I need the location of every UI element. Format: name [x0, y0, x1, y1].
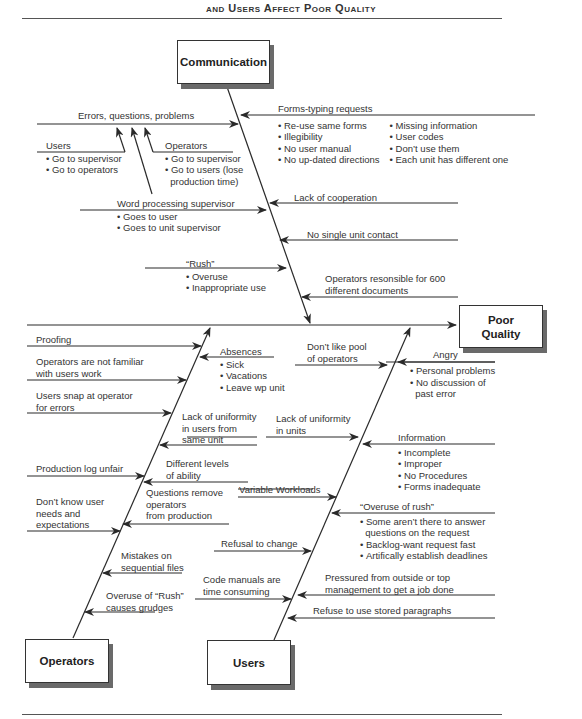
cause-overuse-of-rush: “Overuse of rush” Some aren’t there to a… — [360, 501, 487, 562]
cause-angry: Angry — [433, 349, 458, 361]
cause-users-snap: Users snap at operatorfor errors — [36, 390, 133, 413]
cause-information: Information IncompleteImproperNo Procedu… — [398, 432, 481, 493]
cause-angry-items: Personal problemsNo discussion ofpast er… — [410, 364, 495, 400]
cause-lack-uniformity-units: Lack of uniformityin units — [276, 413, 350, 436]
cause-production-log-unfair: Production log unfair — [36, 463, 123, 475]
cause-different-levels-ability: Different levelsof ability — [166, 458, 229, 481]
cause-pressured-outside: Pressured from outside or topmanagement … — [325, 572, 454, 595]
cause-proofing: Proofing — [36, 334, 71, 346]
cause-lack-of-cooperation: Lack of cooperation — [294, 192, 377, 204]
cause-absences: Absences SickVacationsLeave wp unit — [220, 346, 285, 393]
users-box: Users — [207, 640, 291, 685]
cause-rush: “Rush” OveruseInappropriate use — [186, 258, 266, 294]
cause-refusal-to-change: Refusal to change — [221, 538, 298, 550]
cause-dont-like-pool: Don’t like poolof operators — [307, 341, 367, 364]
cause-operators-not-familiar: Operators are not familiarwith users wor… — [36, 356, 144, 379]
communication-box: Communication — [177, 40, 270, 84]
cause-questions-remove-operators: Questions removeoperatorsfrom production — [146, 487, 223, 522]
cause-variable-workloads: Variable Workloads — [239, 484, 321, 496]
cause-forms-typing-requests: Forms-typing requests Re-use same formsI… — [278, 103, 508, 166]
cause-word-processing-supervisor: Word processing supervisor Goes to userG… — [117, 198, 235, 234]
poor-quality-box: Poor Quality — [459, 305, 543, 348]
effect-label: Poor Quality — [476, 313, 526, 341]
cause-overuse-rush-grudges: Overuse of “Rush”causes grudges — [106, 590, 184, 613]
sub-cause-operators: Operators Go to supervisorGo to users (l… — [165, 140, 243, 187]
users-label: Users — [233, 656, 265, 670]
operators-box: Operators — [25, 639, 109, 683]
cause-operators-600-documents: Operators resonsible for 600 different d… — [325, 273, 445, 296]
cause-dont-know-user-needs: Don’t know userneeds andexpectations — [36, 496, 104, 531]
sub-cause-users: Users Go to supervisorGo to operators — [46, 140, 122, 176]
communication-label: Communication — [180, 55, 267, 69]
cause-errors-questions-problems: Errors, questions, problems — [78, 110, 194, 122]
cause-code-manuals: Code manuals aretime consuming — [203, 574, 281, 597]
cause-lack-uniformity-users: Lack of uniformityin users fromsame unit — [182, 411, 256, 446]
cause-no-single-unit-contact: No single unit contact — [307, 229, 398, 241]
cause-refuse-stored-paragraphs: Refuse to use stored paragraphs — [313, 605, 451, 617]
operators-label: Operators — [40, 654, 95, 668]
cause-mistakes-sequential-files: Mistakes onsequential files — [121, 550, 184, 573]
